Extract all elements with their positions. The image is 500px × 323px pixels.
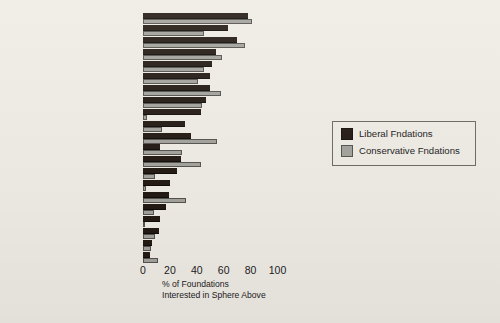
bar-liberal [143,109,201,115]
bar-conservative [143,174,155,179]
x-tick-label: 40 [191,264,203,276]
bar-conservative [143,210,154,215]
bar-conservative [143,31,204,36]
x-tick-label: 20 [164,264,176,276]
bar-conservative [143,198,186,203]
bar-conservative [143,43,245,48]
bar-conservative [143,127,162,132]
x-tick-label: 60 [218,264,230,276]
x-axis-title: % of Foundations Interested in Sphere Ab… [162,279,266,301]
bar-conservative [143,162,201,167]
bar-conservative [143,186,146,191]
legend-label-conservative: Conservative Fndations [359,145,460,157]
x-axis-title-line-1: % of Foundations [162,279,266,290]
legend-label-liberal: Liberal Fndations [359,128,433,140]
bar-conservative [143,67,204,72]
chart-legend: Liberal Fndations Conservative Fndations [332,121,476,166]
bar-conservative [143,139,217,144]
x-tick-label: 100 [269,264,287,276]
light-swatch-icon [341,145,353,157]
bar-conservative [143,222,145,227]
bar-conservative [143,115,147,120]
x-axis-title-line-2: Interested in Sphere Above [162,290,266,301]
bar-conservative [143,91,221,96]
bar-conservative [143,150,182,155]
bar-conservative [143,258,158,263]
bar-liberal [143,180,170,186]
x-tick-label: 80 [245,264,257,276]
bar-liberal [143,216,160,222]
bar-conservative [143,103,202,108]
chart-page: CivicsCommunityInternational RelationLaw… [0,0,500,323]
bar-conservative [143,234,155,239]
dark-swatch-icon [341,128,353,140]
bar-conservative [143,246,151,251]
bar-conservative [143,55,222,60]
bar-conservative [143,79,198,84]
bar-conservative [143,19,252,24]
x-tick-label: 0 [140,264,146,276]
